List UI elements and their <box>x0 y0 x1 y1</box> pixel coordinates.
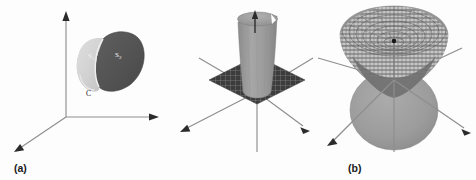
axis-down-left-arrowhead <box>180 125 190 132</box>
panel-c-graphic <box>312 0 476 180</box>
three-panel-geometry-figure: S1 S2 C (a) <box>0 0 476 180</box>
panel-a: S1 S2 C (a) <box>0 0 160 180</box>
label-c: C <box>86 89 91 98</box>
panel-b-graphic <box>155 0 315 180</box>
panel-a-graphic: S1 S2 C <box>0 0 160 180</box>
cone-surface <box>238 12 278 98</box>
axis-diagonal <box>20 117 66 148</box>
panel-b: (b) <box>155 0 315 180</box>
axis-down-right-arrowhead <box>461 129 471 136</box>
panel-c: (c) <box>312 0 476 180</box>
upper-mesh-cone <box>336 2 454 98</box>
panel-a-surface <box>77 32 145 92</box>
axis-down-right-arrowhead <box>300 127 310 134</box>
axis-vertical-arrowhead <box>62 11 69 21</box>
center-point-marker <box>392 39 396 43</box>
caption-a: (a) <box>14 162 27 174</box>
axis-diagonal-arrowhead <box>14 144 24 152</box>
cone-mesh-interior <box>336 2 454 86</box>
axis-down-left-arrowhead <box>327 138 337 146</box>
